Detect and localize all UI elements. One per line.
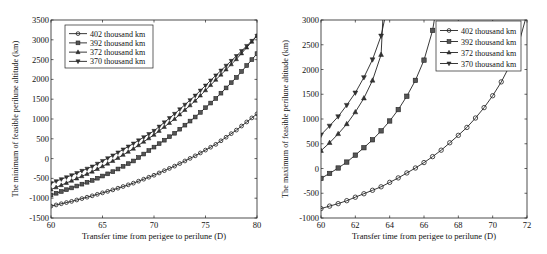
marker-square	[405, 94, 409, 98]
marker-square	[413, 78, 417, 82]
marker-square	[387, 119, 391, 123]
y-tick-label: 500	[36, 134, 49, 144]
marker-square	[162, 138, 166, 142]
marker-square	[49, 193, 53, 197]
marker-square	[396, 107, 400, 111]
y-tick-label: 3500	[32, 15, 49, 25]
y-tick-label: -500	[33, 173, 49, 183]
legend-label: 370 thousand km	[461, 60, 517, 69]
y-tick-label: 2000	[32, 74, 49, 84]
y-tick-label: 1500	[32, 94, 49, 104]
marker-square	[219, 91, 223, 95]
x-tick-label: 66	[420, 220, 429, 230]
legend: 402 thousand km392 thousand km372 thousa…	[65, 25, 153, 68]
marker-square	[209, 101, 213, 105]
marker-square	[126, 162, 130, 166]
x-tick-label: 70	[488, 220, 497, 230]
marker-square	[250, 58, 254, 62]
marker-square	[101, 174, 105, 178]
marker-square	[121, 164, 125, 168]
marker-square	[345, 160, 349, 164]
right-chart-maximum-altitude: 60626466687072-1000-50005001000150020002…	[281, 15, 531, 241]
marker-square	[240, 70, 244, 74]
x-axis-label: Transfer time from perigee to perilune (…	[82, 231, 226, 241]
marker-square	[142, 152, 146, 156]
legend-label: 402 thousand km	[461, 27, 517, 36]
marker-square	[152, 145, 156, 149]
x-tick-label: 75	[201, 220, 210, 230]
marker-square	[106, 172, 110, 176]
marker-square	[85, 180, 89, 184]
y-tick-label: 2500	[302, 40, 319, 50]
marker-square	[65, 188, 69, 192]
marker-square	[447, 40, 451, 44]
marker-square	[245, 64, 249, 68]
y-tick-label: -1000	[29, 193, 49, 203]
y-tick-label: 2500	[32, 55, 49, 65]
marker-square	[168, 135, 172, 139]
marker-square	[422, 58, 426, 62]
marker-square	[157, 142, 161, 146]
x-axis-label: Transfer time from perigee to perilune (…	[352, 231, 496, 241]
marker-square	[54, 191, 58, 195]
y-tick-label: -1500	[29, 213, 49, 223]
marker-square	[59, 190, 63, 194]
marker-square	[178, 127, 182, 131]
x-tick-label: 80	[253, 220, 262, 230]
y-tick-label: 0	[45, 154, 49, 164]
marker-square	[95, 176, 99, 180]
left-chart-minimum-altitude: 6065707580-1500-1000-5000500100015002000…	[11, 15, 261, 241]
marker-square	[229, 81, 233, 85]
marker-square	[75, 184, 79, 188]
marker-square	[90, 178, 94, 182]
legend-label: 370 thousand km	[90, 57, 146, 66]
x-tick-label: 70	[150, 220, 159, 230]
marker-square	[111, 170, 115, 174]
marker-square	[362, 146, 366, 150]
legend-label: 372 thousand km	[461, 49, 517, 58]
figure: 6065707580-1500-1000-5000500100015002000…	[0, 0, 547, 254]
x-tick-label: 65	[98, 220, 107, 230]
marker-square	[327, 171, 331, 175]
marker-square	[173, 131, 177, 135]
y-tick-label: -500	[303, 188, 319, 198]
y-tick-label: 0	[315, 164, 319, 174]
x-tick-label: 62	[351, 220, 360, 230]
marker-square	[336, 166, 340, 170]
marker-square	[353, 153, 357, 157]
legend-label: 392 thousand km	[90, 39, 146, 48]
y-axis-label: The maximum of feasible perilune altitud…	[281, 40, 290, 198]
marker-square	[430, 28, 434, 32]
marker-square	[80, 182, 84, 186]
y-tick-label: 1500	[302, 89, 319, 99]
marker-square	[132, 159, 136, 163]
marker-square	[224, 86, 228, 90]
marker-square	[137, 156, 141, 160]
legend-label: 402 thousand km	[90, 30, 146, 39]
marker-square	[193, 115, 197, 119]
marker-square	[70, 186, 74, 190]
x-tick-label: 68	[454, 220, 463, 230]
legend-label: 392 thousand km	[461, 38, 517, 47]
legend: 402 thousand km392 thousand km372 thousa…	[436, 21, 521, 71]
x-tick-label: 72	[523, 220, 532, 230]
marker-square	[379, 129, 383, 133]
marker-square	[214, 97, 218, 101]
marker-square	[255, 52, 259, 56]
marker-square	[188, 119, 192, 123]
marker-square	[183, 123, 187, 127]
y-tick-label: 1000	[302, 114, 319, 124]
y-tick-label: 2000	[302, 65, 319, 75]
marker-square	[370, 138, 374, 142]
marker-square	[147, 149, 151, 153]
marker-square	[204, 106, 208, 110]
y-axis-label: The minimum of feasible perilune altitud…	[11, 41, 20, 198]
y-tick-label: 500	[306, 139, 319, 149]
y-tick-label: 3000	[302, 15, 319, 25]
marker-square	[198, 110, 202, 114]
marker-square	[319, 176, 323, 180]
x-tick-label: 64	[385, 220, 394, 230]
marker-square	[116, 167, 120, 171]
y-tick-label: -1000	[299, 213, 319, 223]
legend-label: 372 thousand km	[90, 48, 146, 57]
